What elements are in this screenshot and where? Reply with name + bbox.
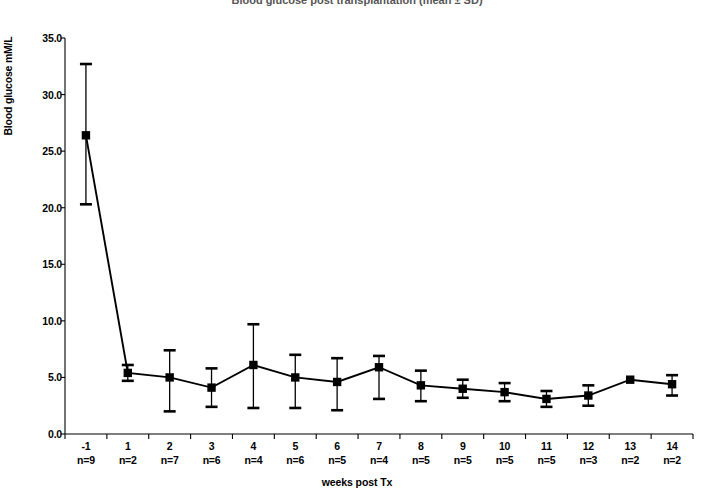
data-point-marker[interactable] — [207, 383, 215, 391]
data-point-marker[interactable] — [82, 131, 90, 139]
data-point-marker[interactable] — [500, 388, 508, 396]
chart-container: Blood glucose post transplantation (mean… — [0, 0, 714, 501]
data-point-marker[interactable] — [249, 361, 257, 369]
data-point-marker[interactable] — [375, 363, 383, 371]
x-axis-title: weeks post Tx — [0, 476, 714, 488]
data-point-marker[interactable] — [124, 369, 132, 377]
data-point-marker[interactable] — [626, 375, 634, 383]
x-tick-group-size: n=2 — [642, 453, 702, 468]
data-point-marker[interactable] — [459, 385, 467, 393]
data-point-marker[interactable] — [668, 380, 676, 388]
plot-area — [0, 0, 714, 501]
data-point-marker[interactable] — [333, 378, 341, 386]
x-tick-week: 14 — [642, 440, 702, 453]
data-point-marker[interactable] — [417, 381, 425, 389]
x-tick-label: 14n=2 — [642, 440, 702, 468]
data-point-marker[interactable] — [165, 373, 173, 381]
error-bar — [373, 356, 385, 399]
data-point-marker[interactable] — [542, 395, 550, 403]
data-point-marker[interactable] — [291, 373, 299, 381]
data-point-marker[interactable] — [584, 391, 592, 399]
